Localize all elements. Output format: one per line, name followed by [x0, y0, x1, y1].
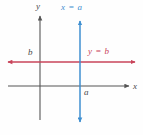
y-axis-label: y [36, 2, 40, 11]
graph-canvas [0, 0, 143, 135]
x-axis-label: x [133, 82, 137, 91]
tick-label-a: a [84, 88, 89, 97]
tick-label-b: b [28, 48, 33, 57]
equation-label-x-equals-a: x = a [61, 3, 83, 12]
coordinate-plane-figure: y x b a y = b x = a [0, 0, 143, 135]
equation-label-y-equals-b: y = b [88, 47, 110, 56]
